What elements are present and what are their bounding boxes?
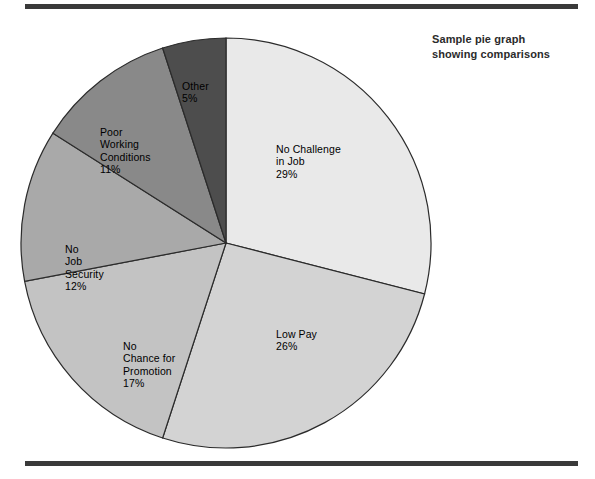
pie-chart-svg — [0, 15, 460, 460]
slice-label-low-pay: Low Pay 26% — [276, 328, 317, 353]
chart-title-line-2: showing comparisons — [432, 47, 582, 62]
chart-title: Sample pie graph showing comparisons — [432, 32, 582, 61]
bottom-rule — [25, 461, 578, 466]
slice-label-poor-working-conditions: Poor Working Conditions 11% — [100, 126, 151, 176]
slice-label-other: Other 5% — [182, 80, 209, 105]
slice-label-no-chance-for-promotion: No Chance for Promotion 17% — [123, 340, 175, 390]
top-rule — [25, 4, 578, 9]
figure-container: No Challenge in Job 29% Low Pay 26% No C… — [0, 0, 595, 479]
slice-label-no-challenge-in-job: No Challenge in Job 29% — [276, 143, 341, 180]
chart-title-line-1: Sample pie graph — [432, 32, 582, 47]
slice-label-no-job-security: No Job Security 12% — [65, 243, 104, 293]
pie-chart: No Challenge in Job 29% Low Pay 26% No C… — [0, 15, 460, 460]
